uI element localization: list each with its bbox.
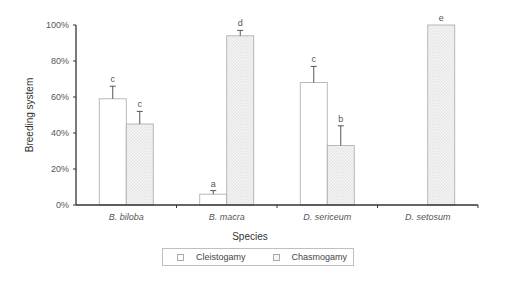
legend: Cleistogamy Chasmogamy	[162, 248, 354, 266]
bars-group: ccadcbe	[99, 13, 455, 205]
bar-chasmogamy-2	[327, 146, 354, 205]
legend-item-cleistogamy: Cleistogamy	[177, 252, 246, 262]
category-label: D. setosum	[405, 212, 451, 222]
legend-label-cleistogamy: Cleistogamy	[196, 252, 246, 262]
x-axis: B. bilobaB. macraD. sericeumD. setosum	[76, 205, 478, 222]
x-axis-title: Species	[232, 231, 268, 242]
category-label: D. sericeum	[303, 212, 352, 222]
significance-letter: c	[111, 74, 116, 84]
significance-letter: a	[211, 179, 216, 189]
bar-chasmogamy-3	[428, 25, 455, 205]
y-axis-title: Breeding system	[24, 78, 35, 152]
plain-square-swatch-icon	[177, 254, 184, 261]
significance-letter: b	[338, 114, 343, 124]
dotted-square-swatch-icon	[273, 254, 280, 261]
bar-chasmogamy-0	[126, 124, 153, 205]
significance-letter: d	[238, 18, 243, 28]
bar-cleistogamy-1	[200, 194, 227, 205]
svg-text:20%: 20%	[51, 164, 69, 174]
bar-chart: Breeding system 0%20%40%60%80%100% ccadc…	[0, 0, 506, 285]
svg-text:0%: 0%	[56, 200, 69, 210]
category-label: B. biloba	[109, 212, 144, 222]
legend-label-chasmogamy: Chasmogamy	[292, 252, 348, 262]
svg-text:Breeding system: Breeding system	[24, 78, 35, 152]
y-axis: 0%20%40%60%80%100%	[46, 20, 76, 210]
bar-cleistogamy-2	[300, 83, 327, 205]
svg-text:60%: 60%	[51, 92, 69, 102]
category-label: B. macra	[209, 212, 245, 222]
bar-chasmogamy-1	[227, 36, 254, 205]
svg-text:40%: 40%	[51, 128, 69, 138]
bar-cleistogamy-0	[99, 99, 126, 205]
significance-letter: c	[138, 99, 143, 109]
significance-letter: e	[439, 13, 444, 23]
legend-item-chasmogamy: Chasmogamy	[273, 252, 348, 262]
svg-text:100%: 100%	[46, 20, 69, 30]
significance-letter: c	[312, 54, 317, 64]
svg-text:80%: 80%	[51, 56, 69, 66]
